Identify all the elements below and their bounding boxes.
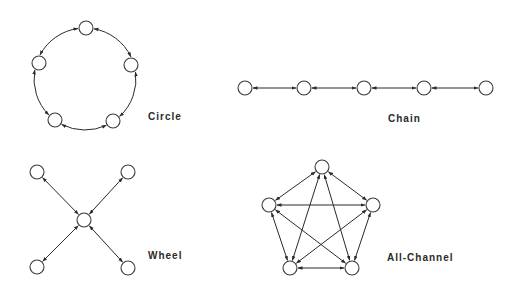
bidirectional-arrow <box>94 29 131 57</box>
network-node <box>357 81 371 95</box>
circle-label: Circle <box>148 111 182 123</box>
network-node <box>32 56 46 70</box>
bidirectional-arrow <box>328 172 366 200</box>
bidirectional-arrow <box>62 124 107 130</box>
network-node <box>121 261 135 275</box>
bidirectional-arrow <box>34 70 49 115</box>
network-node <box>30 260 44 274</box>
network-node <box>366 198 380 212</box>
network-node <box>417 81 431 95</box>
bidirectional-arrow <box>120 72 136 117</box>
bidirectional-arrow <box>292 175 319 261</box>
network-node <box>345 261 359 275</box>
network-node <box>48 113 62 127</box>
wheel-network <box>30 165 135 275</box>
network-node <box>283 261 297 275</box>
all-channel-network <box>262 160 380 275</box>
network-node <box>124 58 138 72</box>
wheel-label: Wheel <box>148 250 182 262</box>
bidirectional-arrow <box>43 178 79 215</box>
network-node <box>479 81 493 95</box>
network-node <box>121 165 135 179</box>
chain-network <box>238 81 493 95</box>
communication-networks-diagram <box>0 0 516 295</box>
bidirectional-arrow <box>89 226 122 262</box>
network-node <box>315 160 329 174</box>
network-node <box>297 81 311 95</box>
network-node <box>262 198 276 212</box>
bidirectional-arrow <box>272 213 288 261</box>
bidirectional-arrow <box>355 213 371 261</box>
bidirectional-arrow <box>324 175 349 261</box>
all-channel-label: All-Channel <box>387 252 454 264</box>
network-node <box>106 114 120 128</box>
network-node <box>30 165 44 179</box>
bidirectional-arrow <box>40 29 78 55</box>
network-node <box>77 213 91 227</box>
chain-label: Chain <box>388 113 421 125</box>
circle-network <box>32 21 138 130</box>
bidirectional-arrow <box>43 226 79 262</box>
bidirectional-arrow <box>89 178 122 214</box>
network-node <box>79 21 93 35</box>
bidirectional-arrow <box>276 172 316 201</box>
network-node <box>238 81 252 95</box>
